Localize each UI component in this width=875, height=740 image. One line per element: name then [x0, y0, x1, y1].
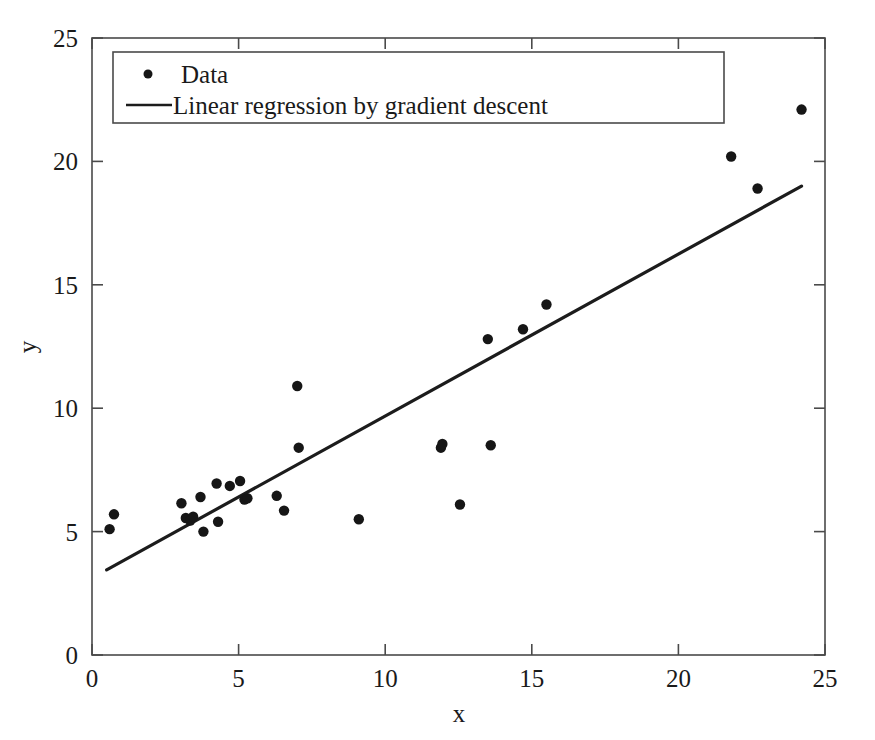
plot-border — [92, 38, 825, 655]
data-point — [752, 183, 762, 193]
y-tick-label: 20 — [53, 148, 78, 175]
chart-legend: Data Linear regression by gradient desce… — [113, 52, 724, 123]
data-point-series — [104, 104, 806, 536]
data-point — [104, 524, 114, 534]
x-tick-label: 25 — [813, 665, 838, 692]
data-point — [541, 299, 551, 309]
y-tick-label: 0 — [66, 642, 79, 669]
data-point — [518, 324, 528, 334]
x-tick-label: 20 — [666, 665, 691, 692]
y-tick-label: 25 — [53, 25, 78, 52]
data-point — [292, 381, 302, 391]
x-axis-title: x — [453, 700, 466, 727]
regression-line — [107, 186, 802, 570]
data-point — [486, 440, 496, 450]
y-tick-label: 5 — [66, 519, 79, 546]
data-point — [242, 493, 252, 503]
data-point — [109, 509, 119, 519]
scatter-plot-figure: 0510152025 0510152025 x y Data Linear re… — [0, 0, 875, 740]
data-point — [213, 517, 223, 527]
y-tick-label: 15 — [53, 272, 78, 299]
legend-label-regression: Linear regression by gradient descent — [173, 92, 548, 119]
x-tick-label: 0 — [86, 665, 99, 692]
x-tick-label: 10 — [373, 665, 398, 692]
x-tick-label: 15 — [519, 665, 544, 692]
x-axis-ticks — [92, 38, 825, 655]
chart-canvas: 0510152025 0510152025 x y Data Linear re… — [0, 0, 875, 740]
data-point — [235, 476, 245, 486]
y-axis-tick-labels: 0510152025 — [53, 25, 78, 669]
data-point — [195, 492, 205, 502]
data-point — [726, 151, 736, 161]
data-point — [225, 481, 235, 491]
data-point — [455, 499, 465, 509]
data-point — [483, 334, 493, 344]
legend-label-data: Data — [181, 61, 228, 88]
axis-frame — [92, 38, 825, 655]
x-axis-tick-labels: 0510152025 — [86, 665, 838, 692]
data-point — [176, 498, 186, 508]
y-axis-title: y — [14, 340, 41, 353]
data-point — [796, 104, 806, 114]
regression-line-path — [107, 186, 802, 570]
data-point — [272, 491, 282, 501]
y-tick-label: 10 — [53, 395, 78, 422]
data-point — [279, 505, 289, 515]
data-point — [211, 478, 221, 488]
data-point — [188, 512, 198, 522]
x-tick-label: 5 — [232, 665, 245, 692]
data-point — [198, 526, 208, 536]
data-point — [437, 439, 447, 449]
data-point — [354, 514, 364, 524]
y-axis-ticks — [92, 38, 825, 655]
data-point — [294, 442, 304, 452]
legend-marker-data-dot-icon — [144, 70, 153, 79]
